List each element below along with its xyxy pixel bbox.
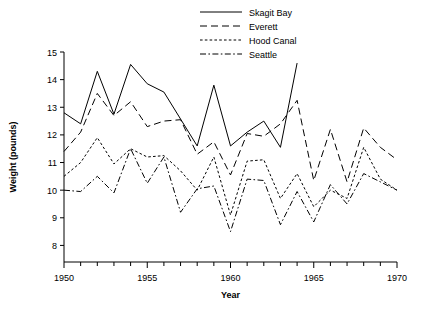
y-tick-label: 10 xyxy=(47,186,57,196)
x-tick-label: 1965 xyxy=(304,273,324,283)
y-tick-label: 8 xyxy=(52,241,57,251)
x-tick-label: 1970 xyxy=(387,273,407,283)
legend-label-skagit-bay: Skagit Bay xyxy=(249,8,293,18)
chart-canvas: 8910111213141519501955196019651970YearWe… xyxy=(0,0,425,310)
x-tick-label: 1955 xyxy=(137,273,157,283)
y-tick-label: 13 xyxy=(47,103,57,113)
y-tick-label: 15 xyxy=(47,48,57,58)
series-line-everett xyxy=(64,93,397,181)
legend-label-hood-canal: Hood Canal xyxy=(249,36,297,46)
series-line-skagit-bay xyxy=(64,63,297,147)
y-axis-title: Weight (pounds) xyxy=(8,122,18,193)
series-line-seattle xyxy=(64,149,397,232)
y-tick-label: 9 xyxy=(52,213,57,223)
y-tick-label: 12 xyxy=(47,130,57,140)
legend-label-everett: Everett xyxy=(249,22,278,32)
x-tick-label: 1950 xyxy=(54,273,74,283)
y-tick-label: 11 xyxy=(48,158,57,168)
x-tick-label: 1960 xyxy=(220,273,240,283)
line-chart: 8910111213141519501955196019651970YearWe… xyxy=(0,0,425,310)
y-tick-label: 14 xyxy=(47,75,57,85)
legend-label-seattle: Seattle xyxy=(249,50,277,60)
x-axis-title: Year xyxy=(221,290,241,300)
